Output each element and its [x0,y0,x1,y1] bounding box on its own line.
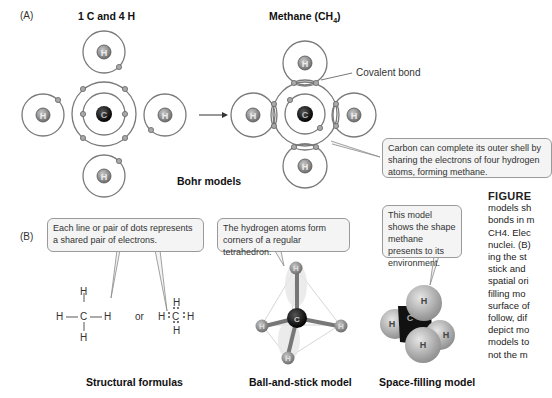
ball-and-stick-caption: Ball-and-stick model [249,376,352,388]
svg-text:C: C [101,110,108,120]
svg-text:H: H [101,172,108,182]
lewis-h-top: H [173,297,180,308]
svg-text:H: H [250,111,257,121]
figure-line: filling mo [488,288,536,300]
covalent-bond-label: Covalent bond [356,67,421,78]
bohr-models-caption: Bohr models [177,175,241,187]
svg-text:H: H [40,111,47,121]
lewis-h-left: H [158,311,165,322]
structural-formula-callout: Each line or pair of dots represents a s… [47,218,204,252]
figure-line: nuclei. (B) [488,239,536,251]
figure-line: models sh [488,202,536,214]
lewis-c: C [172,311,179,322]
svg-text:H: H [389,319,396,329]
formula-h-right: H [104,311,111,322]
figure-line: stick and [488,263,536,275]
svg-text:H: H [302,162,309,172]
figure-line: bonds in m [488,214,536,226]
svg-text:C: C [302,110,309,120]
figure-line: depict mo [488,324,536,336]
space-filling-callout: This model shows the shape methane prese… [382,205,462,258]
panel-b-label: (B) [20,231,33,242]
ball-and-stick-model [256,262,348,365]
formula-h-top: H [80,286,87,297]
svg-text:C: C [407,313,414,323]
figure-line: surface of [488,300,536,312]
svg-text:H: H [162,111,169,121]
svg-text:C: C [294,315,300,324]
figure-line: CH4. Elec [488,227,536,239]
lewis-h-bottom: H [173,325,180,336]
svg-text:H: H [338,322,344,331]
figure-line: models to [488,336,536,348]
svg-text:H: H [420,340,427,350]
ball-and-stick-callout: The hydrogen atoms form corners of a reg… [217,218,350,252]
figure-line: not the m [488,349,536,361]
arrow-icon [222,112,228,118]
svg-text:H: H [421,296,428,306]
carbon-shell-callout: Carbon can complete its outer shell by s… [382,138,552,178]
figure-line: ing the st [488,251,536,263]
formula-c: C [80,311,87,322]
formula-h-left: H [56,311,63,322]
svg-text:H: H [293,264,299,273]
svg-text:H: H [443,330,450,340]
figure-title: FIGURE [488,190,536,202]
figure-legend-text: FIGURE models sh bonds in m CH4. Elec nu… [488,190,536,361]
svg-text:H: H [351,111,358,121]
svg-text:H: H [285,354,291,363]
space-filling-caption: Space-filling model [379,376,475,388]
figure-line: follow, dif [488,312,536,324]
svg-text:H: H [101,48,108,58]
or-text: or [135,311,144,322]
structural-formulas-caption: Structural formulas [86,376,183,388]
lewis-h-right: H [187,311,194,322]
formula-h-bottom: H [80,332,87,343]
figure-line: spatial ori [488,275,536,287]
svg-text:H: H [302,59,309,69]
svg-text:H: H [259,322,265,331]
